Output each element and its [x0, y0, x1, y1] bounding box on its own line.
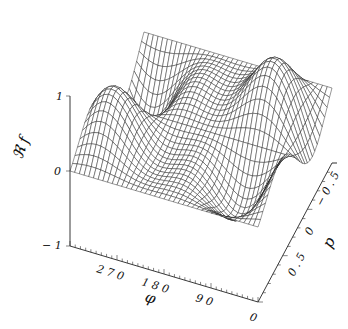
p-tick-neg0.5: − 0 . 5: [313, 169, 342, 208]
z-axis-title: ℜ f: [9, 132, 34, 161]
p-tick-0: 0: [302, 225, 317, 237]
phi-tick-0: 0: [248, 310, 258, 324]
z-tick-0: 0: [54, 165, 61, 178]
surface-plot: 1 0 − 1 ℜ f 2 7 0 1 8 0 9 0 0 φ − 0 . 5 …: [0, 0, 348, 329]
phi-tick-270: 2 7 0: [94, 262, 126, 283]
z-tick-neg1: − 1: [42, 239, 62, 252]
z-axis: 1 0 − 1 ℜ f: [9, 90, 70, 252]
phi-tick-90: 9 0: [194, 291, 215, 309]
wireframe-surface: [70, 32, 332, 227]
p-axis-title: p: [319, 234, 340, 251]
p-tick-0.5: 0 . 5: [285, 251, 308, 279]
phi-axis: 2 7 0 1 8 0 9 0 0 φ: [70, 241, 259, 325]
phi-axis-title: φ: [143, 288, 159, 308]
z-tick-1: 1: [56, 90, 63, 103]
